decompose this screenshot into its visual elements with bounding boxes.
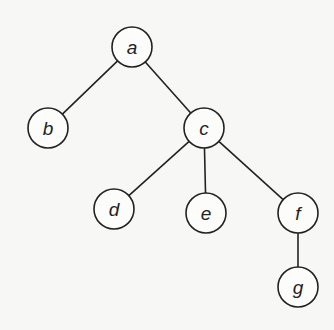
node-label: d — [109, 199, 121, 220]
edge-c-f — [219, 141, 283, 199]
node-b: b — [28, 108, 68, 148]
node-label: a — [127, 37, 138, 58]
edges — [62, 61, 298, 267]
edge-a-c — [145, 62, 190, 113]
node-label: e — [201, 203, 212, 224]
node-label: g — [293, 277, 304, 298]
node-f: f — [278, 193, 318, 233]
edge-c-d — [129, 141, 189, 195]
nodes: abcdefg — [28, 27, 318, 307]
node-e: e — [186, 193, 226, 233]
tree-diagram: abcdefg — [0, 0, 334, 330]
node-g: g — [278, 267, 318, 307]
node-label: b — [43, 118, 54, 139]
node-c: c — [184, 108, 224, 148]
node-a: a — [112, 27, 152, 67]
node-d: d — [94, 189, 134, 229]
node-label: c — [199, 118, 209, 139]
edge-c-e — [204, 148, 205, 193]
edge-a-b — [62, 61, 117, 114]
